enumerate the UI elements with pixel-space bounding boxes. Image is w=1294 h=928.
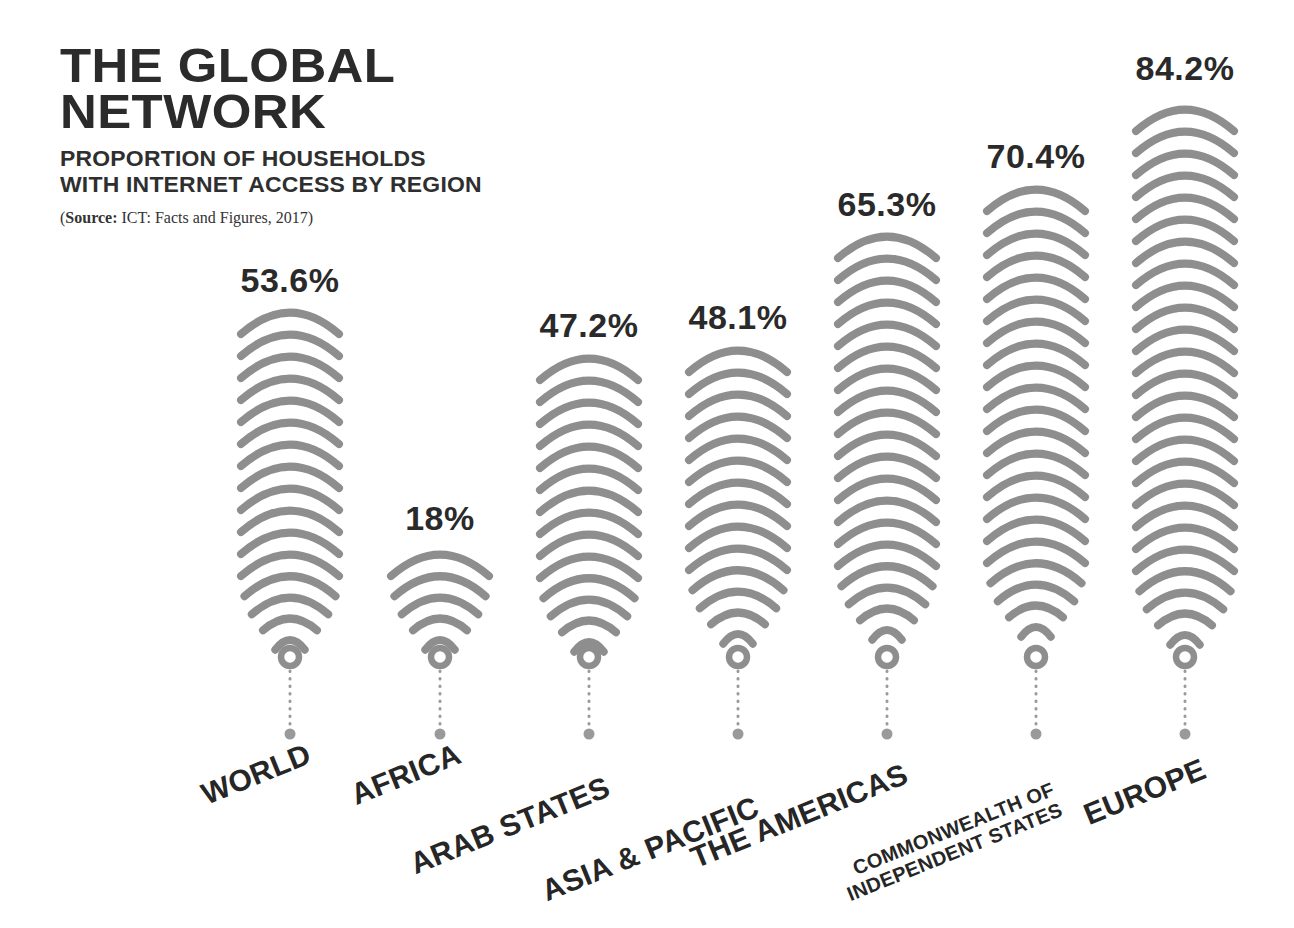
category-label-text: AFRICA	[346, 737, 465, 811]
wifi-arc	[252, 598, 328, 615]
category-label-world[interactable]: WORLD	[197, 737, 316, 811]
category-label-text: WORLD	[197, 737, 316, 811]
value-label-europe: 84.2%	[1137, 50, 1233, 88]
wifi-arc	[394, 576, 485, 596]
wifi-arc-stack-the-americas	[831, 224, 943, 744]
wifi-bar-chart: 53.6%WORLD18%AFRICA47.2%ARAB STATES48.1%…	[0, 0, 1294, 928]
infographic-canvas: THE GLOBAL NETWORK PROPORTION OF HOUSEHO…	[0, 0, 1294, 928]
leader-end-dot	[285, 729, 296, 740]
leader-end-dot	[1031, 729, 1042, 740]
value-label-text: 70.4%	[987, 138, 1086, 176]
wifi-base-ring	[580, 648, 598, 666]
wifi-arc	[998, 585, 1074, 602]
value-label-text: 53.6%	[241, 262, 340, 300]
wifi-arc	[990, 563, 1081, 583]
value-label-text: 65.3%	[838, 186, 937, 224]
wifi-arc	[692, 570, 783, 590]
wifi-arc-stack-commonwealth-of-independent-states	[980, 177, 1092, 744]
leader-end-dot	[584, 729, 595, 740]
wifi-arc	[413, 619, 467, 631]
wifi-arc	[402, 598, 478, 615]
value-label-text: 48.1%	[689, 299, 788, 337]
wifi-arc	[263, 619, 317, 631]
value-label-commonwealth-of-independent-states: 70.4%	[988, 138, 1084, 176]
wifi-arc	[551, 600, 627, 617]
category-label-europe[interactable]: EUROPE	[1079, 752, 1211, 831]
wifi-arc	[860, 609, 914, 621]
wifi-arc-stack-europe	[1129, 97, 1241, 744]
wifi-arc-stack-asia-pacific	[682, 338, 794, 744]
wifi-arc	[872, 630, 901, 640]
value-label-africa: 18%	[406, 500, 474, 538]
wifi-base-ring	[281, 648, 299, 666]
leader-end-dot	[882, 729, 893, 740]
leader-end-dot	[1180, 729, 1191, 740]
wifi-arc-stack-africa	[384, 542, 496, 744]
wifi-arc	[1009, 606, 1063, 618]
leader-end-dot	[435, 729, 446, 740]
value-label-text: 18%	[405, 500, 475, 538]
value-label-text: 84.2%	[1136, 50, 1235, 88]
wifi-arc	[1170, 635, 1199, 645]
wifi-arc	[841, 566, 932, 586]
category-label-text: EUROPE	[1079, 752, 1211, 831]
wifi-base-ring	[1176, 648, 1194, 666]
wifi-arc	[700, 592, 776, 609]
value-label-the-americas: 65.3%	[839, 186, 935, 224]
wifi-arc	[711, 613, 765, 625]
leader-end-dot	[733, 729, 744, 740]
wifi-base-ring	[431, 648, 449, 666]
wifi-arc	[244, 576, 335, 596]
value-label-text: 47.2%	[540, 307, 639, 345]
wifi-arc	[849, 588, 925, 605]
wifi-arc	[723, 634, 752, 644]
category-label-line-1: WORLD	[197, 737, 316, 811]
wifi-base-ring	[729, 648, 747, 666]
wifi-arc-stack-arab-states	[533, 346, 645, 744]
wifi-base-ring	[1027, 648, 1045, 666]
category-label-line-1: EUROPE	[1079, 752, 1211, 831]
wifi-arc	[1021, 627, 1050, 637]
wifi-arc	[1139, 571, 1230, 591]
value-label-world: 53.6%	[242, 262, 338, 300]
wifi-arc-stack-world	[234, 300, 346, 744]
value-label-arab-states: 47.2%	[541, 307, 637, 345]
wifi-arc	[543, 578, 634, 598]
value-label-asia-pacific: 48.1%	[690, 299, 786, 337]
wifi-arc	[562, 621, 616, 633]
category-label-line-1: AFRICA	[346, 737, 465, 811]
category-label-africa[interactable]: AFRICA	[346, 737, 465, 811]
wifi-arc	[1158, 614, 1212, 626]
wifi-base-ring	[878, 648, 896, 666]
wifi-arc	[1147, 593, 1223, 610]
